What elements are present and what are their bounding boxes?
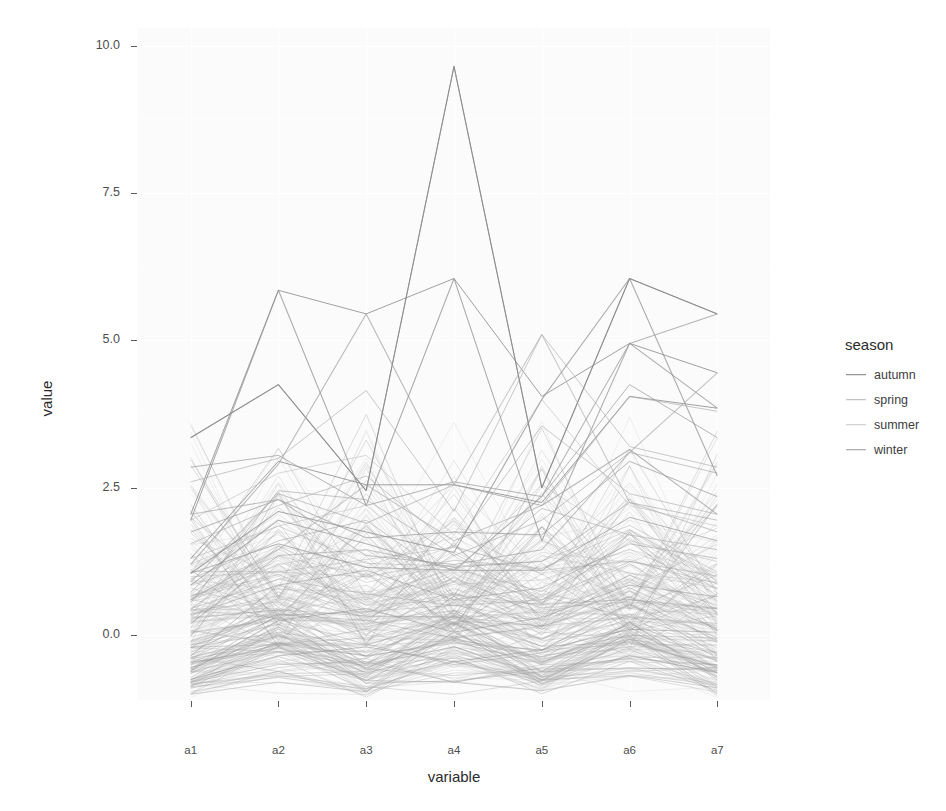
- plot-panel: [138, 28, 770, 700]
- x-tick-mark: [717, 701, 718, 707]
- x-tick-mark: [366, 701, 367, 707]
- x-tick-mark: [191, 701, 192, 707]
- parallel-coordinates-lines: [138, 28, 770, 700]
- legend-item-spring[interactable]: spring: [845, 387, 919, 412]
- y-tick-label: 10.0: [0, 38, 134, 52]
- legend-swatch: [846, 374, 866, 376]
- legend-item-label: spring: [874, 393, 908, 407]
- y-tick-label: 5.0: [0, 332, 134, 346]
- y-tick-label: 2.5: [0, 480, 134, 494]
- x-tick-mark: [542, 701, 543, 707]
- y-tick-label: 0.0: [0, 627, 134, 641]
- legend-key-icon: [845, 391, 867, 409]
- legend-key-icon: [845, 441, 867, 459]
- legend-swatch: [846, 399, 866, 401]
- legend-swatch: [846, 449, 866, 451]
- legend-title: season: [845, 336, 919, 353]
- x-tick-label: a7: [687, 744, 747, 756]
- x-axis-title: variable: [138, 768, 770, 785]
- legend-item-label: winter: [874, 443, 907, 457]
- y-tick-mark: [131, 193, 137, 194]
- legend: season autumnspringsummerwinter: [845, 336, 919, 462]
- legend-item-summer[interactable]: summer: [845, 412, 919, 437]
- x-tick-label: a1: [161, 744, 221, 756]
- x-tick-label: a5: [512, 744, 572, 756]
- x-tick-mark: [278, 701, 279, 707]
- x-tick-label: a2: [248, 744, 308, 756]
- legend-key-icon: [845, 366, 867, 384]
- y-tick-mark: [131, 635, 137, 636]
- legend-item-label: autumn: [874, 368, 916, 382]
- x-tick-label: a3: [336, 744, 396, 756]
- x-tick-label: a4: [424, 744, 484, 756]
- x-tick-mark: [630, 701, 631, 707]
- legend-item-label: summer: [874, 418, 919, 432]
- y-tick-label: 7.5: [0, 185, 134, 199]
- legend-items: autumnspringsummerwinter: [845, 362, 919, 462]
- y-axis-title: value: [38, 339, 55, 459]
- y-tick-mark: [131, 340, 137, 341]
- legend-item-autumn[interactable]: autumn: [845, 362, 919, 387]
- x-tick-label: a6: [600, 744, 660, 756]
- legend-key-icon: [845, 416, 867, 434]
- chart-root: 0.02.55.07.510.0 value a1a2a3a4a5a6a7 va…: [0, 0, 946, 811]
- y-tick-mark: [131, 46, 137, 47]
- x-tick-mark: [454, 701, 455, 707]
- legend-swatch: [846, 424, 866, 426]
- legend-item-winter[interactable]: winter: [845, 437, 919, 462]
- y-tick-mark: [131, 488, 137, 489]
